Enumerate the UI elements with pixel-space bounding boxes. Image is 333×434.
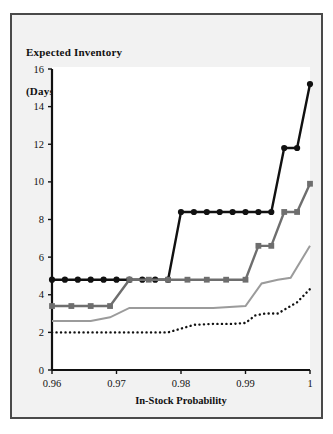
series-dark-gray-squares-marker — [294, 209, 300, 215]
series-dark-gray-squares-marker — [68, 303, 74, 309]
x-axis-tick-label: 1 — [307, 378, 312, 389]
series-black-circles-marker — [255, 209, 261, 215]
y-axis-tick-label: 6 — [39, 252, 44, 263]
series-black-circles-marker — [88, 277, 94, 283]
series-dark-gray-squares-marker — [243, 277, 249, 283]
series-black-circles-marker — [307, 81, 313, 87]
series-dark-gray-squares-marker — [127, 277, 133, 283]
series-black-circles-marker — [101, 277, 107, 283]
chart-frame: Expected Inventory (Days-of-Demand) 0246… — [10, 13, 323, 419]
series-black-circles-marker — [242, 209, 248, 215]
figure-root: Expected Inventory (Days-of-Demand) 0246… — [0, 0, 333, 434]
series-black-circles-marker — [113, 277, 119, 283]
y-axis-tick-label: 8 — [39, 214, 44, 225]
y-axis-tick-label: 14 — [34, 101, 45, 112]
series-dark-gray-squares-marker — [107, 303, 113, 309]
x-axis-tick-label: 0.97 — [107, 378, 125, 389]
x-axis-tick-label: 0.99 — [236, 378, 254, 389]
y-axis-tick-label: 0 — [39, 365, 44, 376]
series-dark-gray-squares-marker — [185, 277, 191, 283]
y-axis-tick-label: 4 — [39, 289, 45, 300]
y-axis-tick-label: 12 — [34, 139, 45, 150]
series-black-circles-marker — [204, 209, 210, 215]
series-dark-gray-squares-marker — [204, 277, 210, 283]
x-axis-title: In-Stock Probability — [135, 395, 227, 406]
series-dark-gray-squares-marker — [146, 277, 152, 283]
series-dark-gray-squares-marker — [307, 181, 313, 187]
y-axis-tick-label: 2 — [39, 327, 44, 338]
series-dark-gray-squares-marker — [88, 303, 94, 309]
y-axis-tick-label: 10 — [34, 176, 45, 187]
series-black-circles-marker — [191, 209, 197, 215]
series-black-circles-marker — [75, 277, 81, 283]
x-axis-tick-label: 0.98 — [172, 378, 190, 389]
series-black-circles-marker — [281, 145, 287, 151]
line-chart: 02468101214160.960.970.980.991In-Stock P… — [12, 15, 325, 421]
y-axis-tick-label: 16 — [34, 64, 45, 75]
series-black-circles-marker — [178, 209, 184, 215]
series-dark-gray-squares-marker — [49, 303, 55, 309]
series-dark-gray-squares-marker — [223, 277, 229, 283]
series-dark-gray-squares-marker — [256, 243, 262, 249]
series-black-circles-marker — [49, 277, 55, 283]
series-black-circles-marker — [268, 209, 274, 215]
series-dark-gray-squares-marker — [268, 243, 274, 249]
plot-background — [52, 67, 310, 370]
x-axis-tick-label: 0.96 — [43, 378, 61, 389]
series-dark-gray-squares-marker — [281, 209, 287, 215]
series-black-circles-marker — [294, 145, 300, 151]
series-dark-gray-squares-marker — [165, 277, 171, 283]
series-black-circles-marker — [217, 209, 223, 215]
series-black-circles-marker — [230, 209, 236, 215]
series-black-circles-marker — [62, 277, 68, 283]
